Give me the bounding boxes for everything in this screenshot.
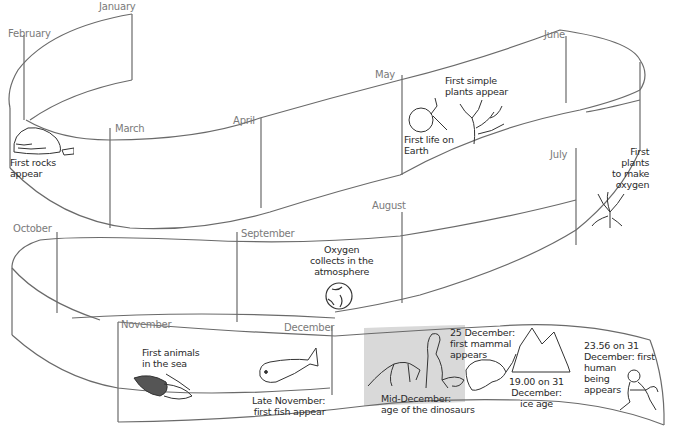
month-label-february: February	[8, 29, 51, 39]
fish-icon	[256, 346, 322, 386]
globe-icon	[324, 281, 354, 311]
simple-plant-icon	[456, 98, 508, 146]
month-label-july: July	[550, 150, 567, 160]
event-first-animals: First animals in the sea	[142, 347, 200, 369]
month-label-august: August	[372, 201, 406, 211]
iceberg-icon	[510, 326, 572, 374]
earth-history-timeline-diagram: January February March April May June Ju…	[0, 0, 676, 431]
month-label-october: October	[13, 224, 52, 234]
event-oxygen-atmosphere: Oxygen collects in the atmosphere	[310, 244, 373, 277]
month-label-march: March	[115, 124, 144, 134]
month-label-january: January	[99, 2, 136, 12]
event-first-fish: Late November: first fish appear	[252, 395, 325, 417]
month-label-december: December	[284, 323, 334, 333]
event-first-life: First life on Earth	[404, 134, 454, 156]
event-first-simple-plants: First simple plants appear	[445, 75, 508, 97]
event-ice-age: 19.00 on 31 December: ice age	[509, 376, 564, 409]
human-icon	[616, 368, 662, 412]
month-label-september: September	[241, 229, 294, 239]
event-first-rocks: First rocks appear	[10, 157, 56, 179]
oxygen-plant-icon	[588, 190, 632, 230]
month-label-june: June	[544, 30, 565, 40]
event-dinosaurs: Mid-December: age of the dinosaurs	[381, 393, 475, 415]
rocks-icon	[10, 124, 74, 158]
trilobite-icon	[130, 370, 198, 402]
timeline-ribbon	[0, 0, 676, 431]
month-label-november: November	[121, 320, 171, 330]
event-oxygen-plants: First plants to make oxygen	[612, 146, 649, 190]
month-label-may: May	[375, 70, 395, 80]
month-label-april: April	[233, 116, 255, 126]
cell-icon	[405, 96, 451, 136]
